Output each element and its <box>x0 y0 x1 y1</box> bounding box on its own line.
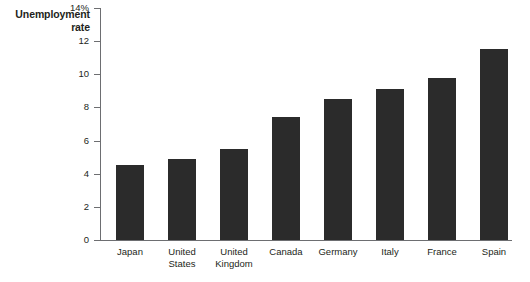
y-axis-tick <box>94 74 100 75</box>
x-axis-category-label-line: Kingdom <box>202 258 266 270</box>
bar <box>272 117 300 240</box>
y-axis-tick-label: 0 <box>0 235 89 245</box>
bar-slot <box>208 8 260 240</box>
y-axis-title-line-2: rate <box>6 21 90 34</box>
y-axis-tick-label: 12 <box>0 36 89 46</box>
y-axis-tick-label: 2 <box>0 202 89 212</box>
bar <box>220 149 248 240</box>
y-axis-tick <box>94 240 100 241</box>
y-axis-tick <box>94 141 100 142</box>
y-axis-tick-label: 14% <box>0 3 89 13</box>
bar-slot <box>468 8 520 240</box>
y-axis-tick <box>94 8 100 9</box>
y-axis-tick <box>94 107 100 108</box>
bar <box>428 78 456 240</box>
x-axis-category-label: Spain <box>462 246 526 258</box>
plot-area <box>101 8 512 240</box>
bar <box>480 49 508 240</box>
y-axis-tick <box>94 41 100 42</box>
unemployment-rate-bar-chart: Unemployment rate 02468101214% JapanUnit… <box>0 0 530 282</box>
x-axis-category-label-line: Spain <box>462 246 526 258</box>
bar <box>324 99 352 240</box>
bar-slot <box>260 8 312 240</box>
bar-slot <box>156 8 208 240</box>
bar-slot <box>312 8 364 240</box>
x-axis-line <box>100 240 512 241</box>
y-axis-tick-label: 10 <box>0 69 89 79</box>
y-axis-tick-label: 4 <box>0 169 89 179</box>
y-axis-tick-label: 8 <box>0 102 89 112</box>
bar-slot <box>364 8 416 240</box>
y-axis-tick <box>94 174 100 175</box>
bar <box>168 159 196 240</box>
bar-slot <box>416 8 468 240</box>
bar-slot <box>104 8 156 240</box>
y-axis-tick <box>94 207 100 208</box>
y-axis-tick-label: 6 <box>0 136 89 146</box>
bar <box>116 165 144 240</box>
bar <box>376 89 404 240</box>
